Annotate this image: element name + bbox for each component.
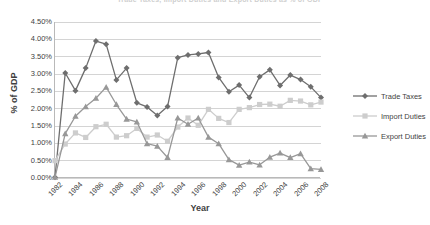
data-point-marker	[362, 93, 368, 99]
y-tick-label: 2.50%	[4, 87, 52, 95]
data-point-marker	[267, 102, 272, 107]
legend-item-import-duties[interactable]: Import Duties	[352, 108, 430, 124]
data-point-marker	[196, 123, 201, 128]
data-series-layer	[55, 22, 321, 178]
y-axis-tick-labels: 0.00%0.50%1.00%1.50%2.00%2.50%3.00%3.50%…	[0, 22, 52, 178]
data-point-marker	[257, 102, 262, 107]
data-point-marker	[83, 135, 88, 140]
x-tick-label: 1988	[104, 180, 126, 202]
data-point-marker	[62, 70, 68, 76]
legend-marker-icon	[352, 111, 378, 121]
x-tick-label: 2000	[227, 180, 249, 202]
data-point-marker	[237, 107, 242, 112]
legend-item-trade-taxes[interactable]: Trade Taxes	[352, 88, 430, 104]
x-tick-label: 1984	[63, 180, 85, 202]
y-tick-label: 0.00%	[4, 174, 52, 182]
data-point-marker	[297, 151, 303, 157]
data-point-marker	[298, 98, 303, 103]
y-tick-label: 2.00%	[4, 105, 52, 113]
data-point-marker	[83, 65, 89, 71]
series-export-duties	[52, 84, 324, 180]
data-point-marker	[246, 159, 252, 165]
legend-label: Export Duties	[378, 132, 426, 141]
chart-legend: Trade TaxesImport DutiesExport Duties	[352, 88, 430, 148]
data-point-marker	[277, 104, 282, 109]
x-tick-label: 1986	[83, 180, 105, 202]
x-tick-label: 1990	[124, 180, 146, 202]
data-point-marker	[72, 88, 78, 94]
chart-container: Trade Taxes, Import Duties and Export Du…	[0, 0, 430, 225]
data-point-marker	[93, 38, 99, 44]
data-point-marker	[206, 107, 211, 112]
data-point-marker	[103, 41, 109, 47]
x-tick-label: 2008	[308, 180, 330, 202]
data-point-marker	[185, 52, 191, 58]
data-point-marker	[104, 122, 109, 127]
data-point-marker	[62, 130, 68, 136]
data-point-marker	[205, 50, 211, 56]
legend-label: Import Duties	[378, 112, 426, 121]
data-point-marker	[318, 99, 323, 104]
data-point-marker	[205, 134, 211, 140]
series-import-duties	[52, 98, 323, 164]
data-point-marker	[308, 102, 313, 107]
data-point-marker	[185, 115, 190, 120]
data-point-marker	[175, 115, 181, 121]
legend-marker-icon	[352, 131, 378, 141]
plot-area	[54, 22, 320, 178]
x-tick-label: 1982	[42, 180, 64, 202]
y-tick-label: 4.00%	[4, 35, 52, 43]
x-tick-label: 1998	[206, 180, 228, 202]
data-point-marker	[288, 98, 293, 103]
y-tick-label: 4.50%	[4, 18, 52, 26]
x-tick-label: 1992	[145, 180, 167, 202]
data-point-marker	[93, 124, 98, 129]
data-point-marker	[247, 105, 252, 110]
data-point-marker	[277, 150, 283, 156]
data-point-marker	[216, 116, 221, 121]
series-line	[55, 41, 321, 177]
x-tick-label: 1994	[165, 180, 187, 202]
data-point-marker	[114, 134, 119, 139]
x-tick-label: 2004	[268, 180, 290, 202]
data-point-marker	[124, 133, 129, 138]
x-axis-tick-labels: 1982198419861988199019921994199619982000…	[54, 180, 324, 220]
data-point-marker	[165, 139, 170, 144]
data-point-marker	[175, 55, 181, 61]
chart-title: Trade Taxes, Import Duties and Export Du…	[70, 0, 370, 6]
data-point-marker	[155, 132, 160, 137]
y-tick-label: 0.50%	[4, 157, 52, 165]
data-point-marker	[226, 120, 231, 125]
data-point-marker	[52, 158, 57, 163]
legend-marker-icon	[352, 91, 378, 101]
y-tick-label: 1.50%	[4, 122, 52, 130]
series-line	[55, 100, 321, 160]
data-point-marker	[362, 113, 367, 118]
data-point-marker	[103, 84, 109, 90]
x-tick-label: 2002	[247, 180, 269, 202]
data-point-marker	[134, 100, 140, 106]
x-tick-label: 1996	[186, 180, 208, 202]
y-tick-label: 3.00%	[4, 70, 52, 78]
x-tick-label: 2006	[288, 180, 310, 202]
series-trade-taxes	[52, 38, 324, 180]
y-tick-label: 1.00%	[4, 139, 52, 147]
data-point-marker	[144, 140, 150, 146]
y-tick-label: 3.50%	[4, 53, 52, 61]
data-point-marker	[185, 121, 191, 127]
data-point-marker	[195, 51, 201, 57]
data-point-marker	[215, 140, 221, 146]
data-point-marker	[113, 101, 119, 107]
data-point-marker	[73, 130, 78, 135]
legend-label: Trade Taxes	[378, 92, 422, 101]
data-point-marker	[195, 115, 201, 121]
legend-item-export-duties[interactable]: Export Duties	[352, 128, 430, 144]
